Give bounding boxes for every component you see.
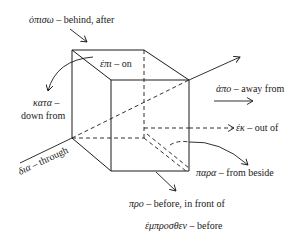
label-ek: ἐκ – out of: [236, 122, 279, 133]
pro-arrow: [156, 172, 176, 191]
label-pro: προ – before, in front of: [129, 198, 226, 209]
label-para: παρα – from beside: [196, 167, 274, 178]
hidden-edge-bottom-right-a: [144, 138, 186, 171]
para-curve-inside: [170, 141, 189, 145]
kata-curve-arrow: [48, 57, 93, 91]
label-emprosthen: ἐμπροσθεν – before: [145, 220, 223, 231]
label-opiso: ὀπισω – behind, after: [29, 14, 115, 25]
label-epi: ἐπι – on: [100, 58, 132, 69]
para-curve-outside: [189, 142, 248, 165]
label-kata-greek: κατα –: [33, 97, 60, 108]
dia-line-inside: [72, 80, 189, 138]
hidden-edge-bottom-right-b: [147, 134, 189, 168]
label-dia: δια – through: [16, 144, 69, 177]
label-apo: ἀπο – away from: [216, 83, 285, 94]
cube-edge-top-right: [144, 50, 189, 80]
preposition-cube-diagram: ὀπισω – behind, after ἐπι – on κατα – do…: [0, 0, 306, 244]
apo-arrow-line: [189, 57, 240, 80]
opiso-arrow: [70, 29, 87, 42]
label-kata-gloss: down from: [21, 110, 65, 121]
cube-edge-bottom-left: [72, 138, 111, 171]
